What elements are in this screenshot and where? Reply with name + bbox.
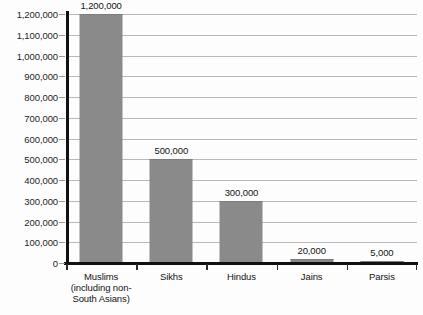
y-axis-tick-mark <box>59 35 65 36</box>
x-axis-category-label-line: Parsis <box>347 271 417 282</box>
bar-value-label: 5,000 <box>370 248 393 258</box>
y-axis-tick-label: 100,000 <box>0 238 58 248</box>
bar-slot: 500,000 <box>136 14 206 263</box>
x-axis-category-label: Hindus <box>206 271 276 282</box>
x-axis-tick-mark <box>66 264 68 270</box>
y-axis-tick-mark <box>59 201 65 202</box>
x-axis-category-label: Parsis <box>347 271 417 282</box>
bar-slot: 300,000 <box>206 14 276 263</box>
y-axis-tick-label: 700,000 <box>0 113 58 123</box>
bar-value-label: 1,200,000 <box>80 1 121 11</box>
x-axis-category-label-line: Jains <box>277 271 347 282</box>
y-axis-tick-mark <box>59 14 65 15</box>
x-axis-tick-mark <box>136 264 138 270</box>
bar <box>80 14 123 263</box>
bar <box>150 159 193 263</box>
x-axis-category-label-line: Hindus <box>206 271 276 282</box>
bar-slot: 1,200,000 <box>66 14 136 263</box>
y-axis-tick-label: 600,000 <box>0 134 58 144</box>
y-axis-tick-mark <box>59 180 65 181</box>
y-axis-line <box>66 11 69 265</box>
y-axis-tick-label: 500,000 <box>0 155 58 165</box>
y-axis-tick-mark <box>59 118 65 119</box>
bar-value-label: 500,000 <box>154 146 188 156</box>
y-axis-tick-mark <box>59 139 65 140</box>
bar-chart: 0100,000200,000300,000400,000500,000600,… <box>0 0 423 315</box>
x-axis-category-labels: Muslims(including non-South Asians)Sikhs… <box>66 271 417 315</box>
bar <box>220 201 263 263</box>
y-axis-tick-mark <box>59 242 65 243</box>
bar-value-label: 300,000 <box>225 188 259 198</box>
x-axis-tick-mark <box>416 264 418 270</box>
y-axis-tick-mark <box>59 222 65 223</box>
y-axis-tick-label: 200,000 <box>0 217 58 227</box>
x-axis-category-label: Jains <box>277 271 347 282</box>
y-axis-tick-mark <box>59 76 65 77</box>
bar-series: 1,200,000500,000300,00020,0005,000 <box>66 14 417 263</box>
y-axis-tick-mark <box>59 159 65 160</box>
y-axis-tick-mark <box>59 56 65 57</box>
y-axis-tick-labels: 0100,000200,000300,000400,000500,000600,… <box>0 14 58 263</box>
y-axis-tick-label: 1,000,000 <box>0 51 58 61</box>
y-axis-tick-label: 300,000 <box>0 196 58 206</box>
y-axis-tick-label: 0 <box>0 259 58 269</box>
x-axis-tick-mark <box>277 264 279 270</box>
bar-value-label: 20,000 <box>297 246 325 256</box>
y-axis-tick-label: 1,200,000 <box>0 10 58 20</box>
y-axis-tick-label: 1,100,000 <box>0 30 58 40</box>
x-axis-tick-mark <box>347 264 349 270</box>
y-axis-tick-mark <box>59 263 65 264</box>
x-axis-category-label-line: Sikhs <box>136 271 206 282</box>
plot-area: 1,200,000500,000300,00020,0005,000 <box>66 14 417 263</box>
x-axis-category-label: Muslims(including non-South Asians) <box>66 271 136 304</box>
x-axis-tick-mark <box>206 264 208 270</box>
y-axis-tick-label: 900,000 <box>0 72 58 82</box>
x-axis-category-label-line: Muslims <box>66 271 136 282</box>
bar-slot: 20,000 <box>277 14 347 263</box>
x-axis-ticks <box>66 264 417 270</box>
bar-slot: 5,000 <box>347 14 417 263</box>
y-axis-tick-label: 400,000 <box>0 176 58 186</box>
y-axis-tick-label: 800,000 <box>0 93 58 103</box>
x-axis-category-label-line: (including non- <box>66 282 136 293</box>
x-axis-category-label: Sikhs <box>136 271 206 282</box>
y-axis-tick-mark <box>59 97 65 98</box>
x-axis-category-label-line: South Asians) <box>66 293 136 304</box>
